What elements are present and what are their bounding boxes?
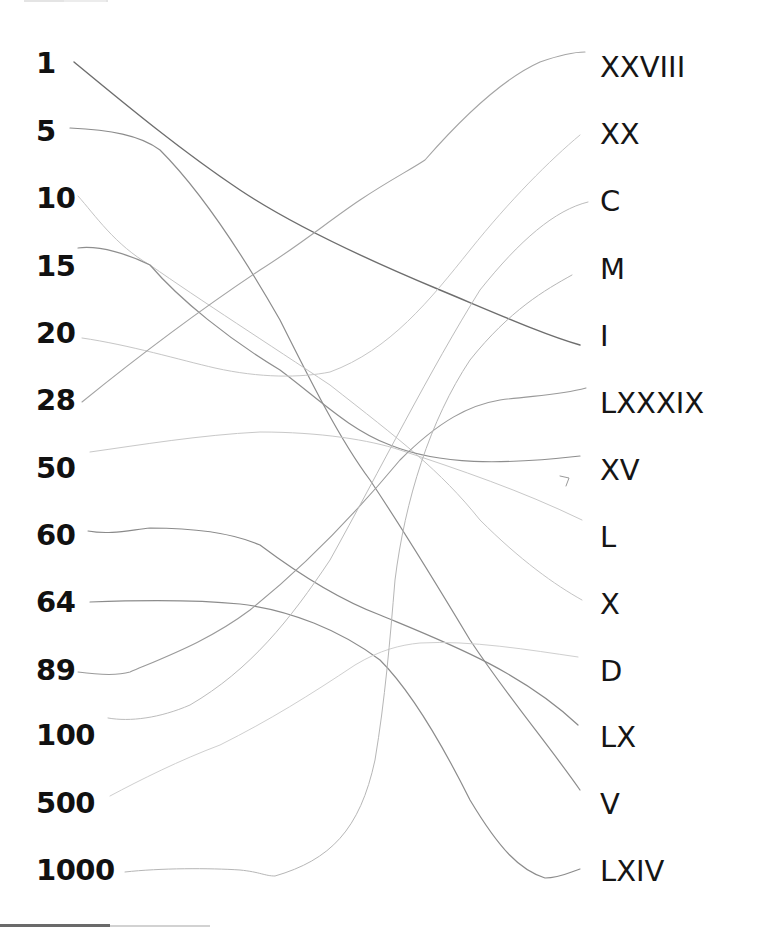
right-numeral-X: X: [600, 589, 620, 619]
right-numeral-LX: LX: [600, 722, 636, 752]
match-line-10-X: [78, 196, 582, 600]
left-number-28: 28: [36, 385, 75, 415]
right-numeral-I: I: [600, 321, 609, 351]
left-number-15: 15: [36, 251, 75, 281]
right-numeral-XX: XX: [600, 119, 640, 149]
left-number-1000: 1000: [36, 855, 115, 885]
stray-pencil-mark: [560, 476, 569, 486]
right-numeral-V: V: [600, 789, 620, 819]
right-numeral-LXIV: LXIV: [600, 856, 664, 886]
left-number-500: 500: [36, 788, 95, 818]
match-line-20-XX: [82, 135, 580, 376]
matching-worksheet: 1 5 10 15 20 28 50 60 64 89 100 500 1000…: [0, 0, 762, 931]
left-number-50: 50: [36, 453, 75, 483]
match-line-1000-M: [125, 275, 572, 876]
right-numeral-LXXXIX: LXXXIX: [600, 388, 704, 418]
right-numeral-M: M: [600, 254, 625, 284]
left-number-64: 64: [36, 587, 75, 617]
left-number-10: 10: [36, 183, 75, 213]
match-line-50-L: [90, 432, 582, 520]
left-number-20: 20: [36, 318, 75, 348]
match-line-15-XV: [78, 247, 580, 461]
right-numeral-C: C: [600, 186, 620, 216]
match-line-500-D: [110, 642, 578, 796]
right-numeral-XXVIII: XXVIII: [600, 52, 685, 82]
match-line-28-XXVIII: [82, 52, 585, 402]
right-numeral-D: D: [600, 656, 622, 686]
match-line-5-V: [70, 128, 580, 790]
left-number-5: 5: [36, 116, 56, 146]
left-number-89: 89: [36, 655, 75, 685]
match-line-1-I: [74, 62, 580, 345]
match-line-60-LX: [88, 528, 578, 725]
left-number-60: 60: [36, 520, 75, 550]
right-numeral-XV: XV: [600, 455, 640, 485]
left-number-100: 100: [36, 720, 95, 750]
match-line-64-LXIV: [90, 601, 580, 878]
pencil-match-lines: [0, 0, 762, 931]
right-numeral-L: L: [600, 522, 616, 552]
left-number-1: 1: [36, 48, 56, 78]
